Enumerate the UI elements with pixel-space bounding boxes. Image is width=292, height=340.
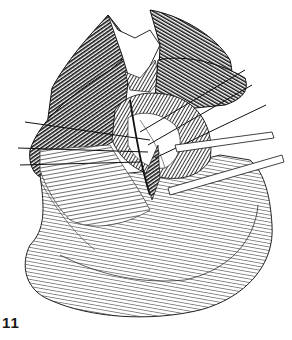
anatomical-illustration <box>0 0 292 340</box>
figure-number: 11 <box>2 314 20 331</box>
